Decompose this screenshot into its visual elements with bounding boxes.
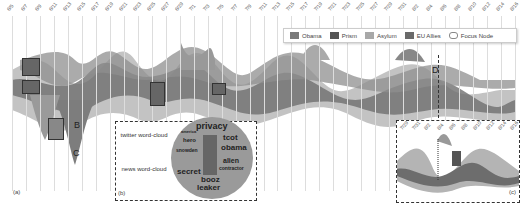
annotation-c: C (73, 148, 80, 158)
swatch-icon (290, 32, 299, 39)
date-gridline (40, 16, 41, 191)
focus-node[interactable] (22, 80, 40, 94)
twitter-word-cloud-label: twitter word-cloud (120, 132, 168, 139)
word: secret (177, 167, 201, 176)
swatch-icon (405, 32, 414, 39)
date-gridline (26, 16, 27, 191)
annotation-b: B (74, 120, 80, 130)
focus-node[interactable] (48, 118, 64, 140)
focus-node[interactable] (22, 58, 40, 76)
storyline-visualization: 6/56/76/96/116/136/156/176/196/216/236/2… (0, 0, 524, 213)
swatch-icon (365, 32, 374, 39)
legend-item-prism[interactable]: Prism (330, 32, 357, 39)
legend: Obama Prism Asylum EU Allies Focus Node (283, 28, 517, 43)
date-gridline (68, 16, 69, 191)
word: obama (221, 143, 247, 152)
word-cloud-panel: twitter word-cloud news word-cloud priva… (115, 121, 257, 201)
word-cloud-circle: privacy tcot obama alien booz leaker sec… (171, 117, 253, 199)
panel-label-a: (a) (13, 189, 20, 195)
word: tcot (223, 133, 238, 142)
news-word-cloud-label: news word-cloud (120, 166, 168, 173)
word: contractor (219, 165, 244, 171)
focus-node-icon (449, 32, 458, 39)
word: privacy (196, 121, 228, 131)
word: hero (183, 137, 196, 143)
date-gridline (110, 16, 111, 191)
legend-item-eu-allies[interactable]: EU Allies (405, 32, 441, 39)
news-cloud-core (203, 135, 217, 175)
word: alien (223, 157, 239, 164)
legend-item-focus-node[interactable]: Focus Node (449, 32, 493, 39)
word: america (181, 129, 196, 134)
panel-label-c: (c) (509, 189, 516, 195)
date-gridline (277, 16, 278, 191)
focus-node[interactable] (150, 82, 165, 106)
word: leaker (197, 183, 220, 192)
inset-stream-graph (397, 121, 519, 202)
date-gridline (12, 16, 13, 191)
legend-item-asylum[interactable]: Asylum (365, 32, 397, 39)
legend-item-obama[interactable]: Obama (290, 32, 322, 39)
date-gridline (54, 16, 55, 191)
panel-label-b: (b) (118, 190, 125, 196)
focus-node[interactable] (212, 83, 226, 95)
zoom-inset-panel: 7/297/318/28/48/68/88/108/128/148/16 (c) (396, 120, 520, 203)
word: snowden (176, 147, 198, 153)
date-gridline (264, 16, 265, 191)
swatch-icon (330, 32, 339, 39)
date-gridline (82, 16, 83, 191)
date-gridline (96, 16, 97, 191)
